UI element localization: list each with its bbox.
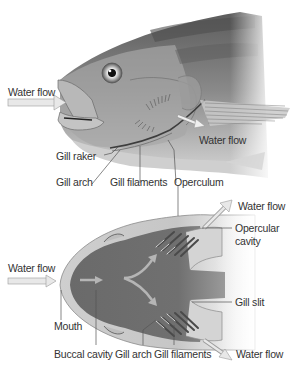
label-operculum: Operculum (174, 176, 224, 188)
label-side-gill-arch: Gill arch (56, 176, 93, 188)
label-top-gill-arch: Gill arch (115, 348, 152, 360)
label-opercular-cavity-line1: Opercular (235, 222, 279, 234)
label-gill-slit: Gill slit (235, 296, 264, 308)
fish-gill-diagram: Water flow Water flow Gill raker Gill ar… (0, 0, 300, 368)
label-top-water-flow-in: Water flow (8, 262, 55, 274)
label-opercular-cavity-line2: cavity (235, 235, 261, 247)
label-side-water-flow-out: Water flow (199, 134, 246, 146)
label-top-gill-filaments: Gill filaments (154, 348, 211, 360)
label-side-gill-filaments: Gill filaments (110, 176, 167, 188)
label-top-water-flow-out-upper: Water flow (238, 200, 285, 212)
label-buccal-cavity: Buccal cavity (54, 348, 113, 360)
top-water-flow-in-arrow (8, 275, 56, 287)
label-top-water-flow-out-lower: Water flow (236, 348, 283, 360)
label-gill-raker: Gill raker (56, 150, 96, 162)
label-side-water-flow-in: Water flow (8, 86, 55, 98)
label-mouth: Mouth (54, 320, 82, 332)
